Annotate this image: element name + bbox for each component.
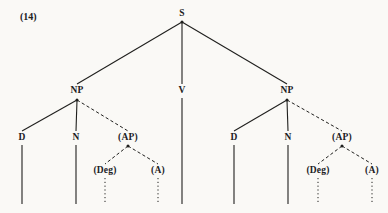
- tree-edge-ap1-deg1: [105, 146, 128, 164]
- tree-node-deg2: (Deg): [306, 166, 329, 176]
- tree-edge-ap1-a1: [128, 146, 158, 164]
- tree-node-n2: N: [284, 133, 291, 143]
- tree-node-np2: NP: [280, 86, 293, 96]
- tree-junction-dot-ap2: [341, 145, 344, 148]
- tree-edge-s-np2: [182, 22, 287, 84]
- tree-edge-np1-ap1: [77, 100, 128, 131]
- tree-node-deg1: (Deg): [93, 166, 116, 176]
- tree-node-ap2: (AP): [332, 133, 352, 143]
- tree-edge-layer: [22, 22, 372, 204]
- tree-node-np1: NP: [70, 86, 83, 96]
- tree-node-a1: (A): [151, 166, 165, 176]
- syntax-tree-graphic: [0, 0, 388, 213]
- tree-edge-s-np1: [77, 22, 182, 84]
- tree-node-ap1: (AP): [118, 133, 138, 143]
- tree-node-d1: D: [18, 133, 25, 143]
- tree-junction-dot-ap1: [127, 145, 130, 148]
- tree-junction-dot-s: [181, 21, 184, 24]
- tree-node-a2: (A): [365, 166, 379, 176]
- tree-junction-dot-np2: [286, 99, 289, 102]
- tree-node-n1: N: [72, 133, 79, 143]
- tree-edge-np2-ap2: [287, 100, 342, 131]
- tree-junction-dot-layer: [76, 21, 344, 148]
- tree-node-d2: D: [230, 133, 237, 143]
- tree-edge-np2-n2: [287, 100, 288, 131]
- tree-node-v: V: [178, 86, 185, 96]
- tree-edge-ap2-deg2: [318, 146, 342, 164]
- tree-edge-np1-n1: [76, 100, 77, 131]
- tree-edge-np2-d2: [234, 100, 287, 131]
- tree-edge-ap2-a2: [342, 146, 372, 164]
- tree-edge-np1-d1: [22, 100, 77, 131]
- tree-node-s: S: [179, 9, 184, 19]
- tree-junction-dot-np1: [76, 99, 79, 102]
- figure-canvas: (14) SNPVNPDN(AP)(Deg)(A)DN(AP)(Deg)(A): [0, 0, 388, 213]
